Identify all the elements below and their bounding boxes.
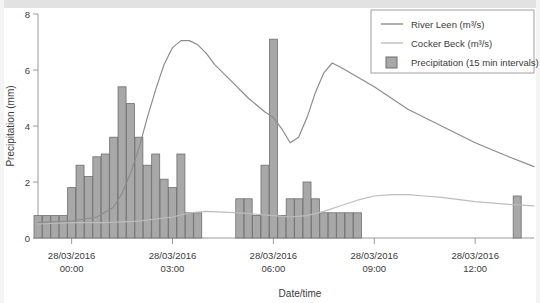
precipitation-bar (152, 154, 160, 238)
precipitation-bar (118, 87, 126, 238)
precipitation-bar (185, 213, 193, 238)
x-tick-label-date: 28/03/2016 (451, 250, 499, 261)
precipitation-bar (337, 213, 345, 238)
precipitation-bar (59, 216, 67, 238)
precipitation-bar (261, 165, 269, 238)
precipitation-bar (353, 213, 361, 238)
precipitation-bar (286, 199, 294, 238)
precipitation-bar (84, 176, 92, 238)
legend-bar-swatch (386, 57, 397, 68)
legend: River Leen (m³/s)Cocker Beck (m³/s)Preci… (371, 10, 539, 73)
precipitation-bar (236, 199, 244, 238)
x-tick-label-date: 28/03/2016 (48, 250, 96, 261)
precipitation-bar (93, 157, 101, 238)
precipitation-bar (320, 213, 328, 238)
precipitation-bar (345, 213, 353, 238)
precipitation-bar (269, 39, 277, 238)
legend-label: Cocker Beck (m³/s) (411, 38, 492, 49)
precipitation-bar (278, 216, 286, 238)
y-tick-label: 6 (25, 65, 30, 76)
precipitation-bar (51, 216, 59, 238)
x-axis-title: Date/time (279, 288, 322, 299)
x-tick-label-date: 28/03/2016 (149, 250, 197, 261)
y-tick-label: 4 (25, 121, 30, 132)
x-tick-label-time: 00:00 (60, 263, 84, 274)
precipitation-bar (328, 213, 336, 238)
y-tick-label: 2 (25, 177, 30, 188)
precipitation-bar (101, 154, 109, 238)
hydrograph-chart: 02468 28/03/201600:0028/03/201603:0028/0… (0, 0, 540, 303)
precipitation-bar (76, 165, 84, 238)
y-tick-label: 8 (25, 9, 30, 20)
y-axis-title: Precipitation (mm) (5, 85, 16, 166)
legend-label: River Leen (m³/s) (411, 19, 484, 30)
y-tick-group: 02468 (25, 9, 38, 244)
x-tick-label-time: 12:00 (463, 263, 487, 274)
y-tick-label: 0 (25, 233, 30, 244)
chart-canvas: 02468 28/03/201600:0028/03/201603:0028/0… (0, 0, 540, 303)
precipitation-bar (68, 188, 76, 238)
x-tick-label-date: 28/03/2016 (350, 250, 398, 261)
precipitation-bar (303, 182, 311, 238)
precipitation-bar (143, 165, 151, 238)
x-tick-label-date: 28/03/2016 (250, 250, 298, 261)
x-tick-label-time: 09:00 (362, 263, 386, 274)
legend-label: Precipitation (15 min intervals) (411, 57, 539, 68)
precipitation-bar (42, 216, 50, 238)
precipitation-bar (244, 199, 252, 238)
precipitation-bar (177, 154, 185, 238)
precipitation-bar (160, 179, 168, 238)
precipitation-bar (253, 216, 261, 238)
precipitation-bar (513, 196, 521, 238)
precipitation-bar (169, 188, 177, 238)
x-tick-label-time: 03:00 (161, 263, 185, 274)
precipitation-bar (295, 199, 303, 238)
precipitation-bar (194, 213, 202, 238)
x-tick-label-time: 06:00 (261, 263, 285, 274)
x-tick-group: 28/03/201600:0028/03/201603:0028/03/2016… (48, 238, 499, 274)
precipitation-bar (34, 216, 42, 238)
precipitation-bar (126, 104, 134, 238)
precipitation-bar (311, 199, 319, 238)
precipitation-bar (135, 137, 143, 238)
